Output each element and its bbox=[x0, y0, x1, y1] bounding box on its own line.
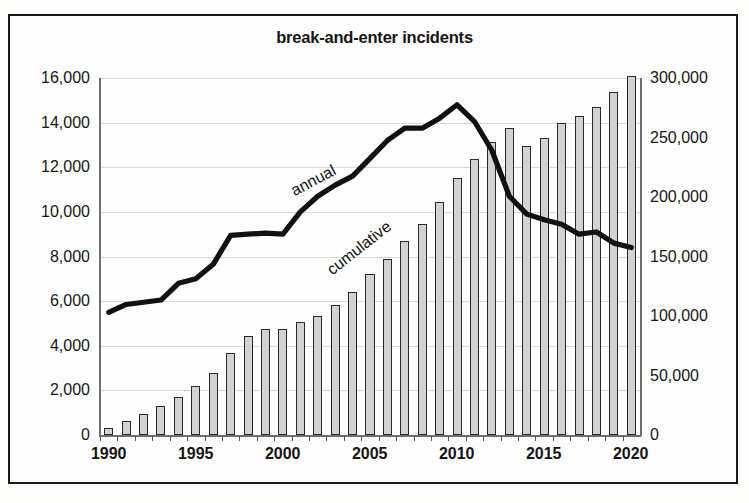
x-tickmark bbox=[292, 436, 293, 441]
x-tick-label: 2020 bbox=[613, 446, 649, 462]
x-tickmark bbox=[222, 436, 223, 441]
x-tickmark bbox=[553, 436, 554, 441]
bar bbox=[435, 202, 444, 435]
x-tick-label: 2000 bbox=[265, 446, 301, 462]
bar bbox=[226, 353, 235, 435]
bar bbox=[191, 386, 200, 435]
y-tick-right: 150,000 bbox=[650, 249, 746, 265]
x-tick-label: 1990 bbox=[91, 446, 127, 462]
bar bbox=[122, 421, 131, 435]
bar bbox=[505, 128, 514, 435]
x-tickmark bbox=[623, 436, 624, 441]
x-tickmark bbox=[448, 436, 449, 441]
y-tick-left: 14,000 bbox=[6, 115, 90, 131]
x-tickmark bbox=[501, 436, 502, 441]
bar bbox=[470, 159, 479, 435]
bar bbox=[383, 259, 392, 435]
bar bbox=[609, 92, 618, 435]
bar bbox=[487, 142, 496, 435]
x-tickmark bbox=[257, 436, 258, 441]
bar bbox=[331, 305, 340, 435]
y-tick-left: 6,000 bbox=[6, 293, 90, 309]
x-tickmark bbox=[518, 436, 519, 441]
y-tick-right: 50,000 bbox=[650, 368, 746, 384]
x-tickmark bbox=[570, 436, 571, 441]
bar bbox=[104, 428, 113, 435]
x-tickmark bbox=[205, 436, 206, 441]
y-tick-right: 0 bbox=[650, 427, 746, 443]
bar bbox=[261, 329, 270, 435]
x-tickmark bbox=[344, 436, 345, 441]
bar bbox=[174, 397, 183, 435]
bar bbox=[522, 146, 531, 435]
bar bbox=[540, 138, 549, 436]
y-tick-right: 200,000 bbox=[650, 189, 746, 205]
x-tickmark bbox=[152, 436, 153, 441]
x-tick-label: 1995 bbox=[178, 446, 214, 462]
bar bbox=[575, 116, 584, 435]
x-tick-label: 2005 bbox=[352, 446, 388, 462]
x-tickmark bbox=[361, 436, 362, 441]
chart-figure: break-and-enter incidents 16,000 14,000 … bbox=[0, 0, 749, 503]
y-tick-right: 100,000 bbox=[650, 308, 746, 324]
bar bbox=[156, 406, 165, 435]
x-tickmark bbox=[379, 436, 380, 441]
x-tickmark bbox=[187, 436, 188, 441]
y-tick-left: 8,000 bbox=[6, 249, 90, 265]
bar bbox=[592, 107, 601, 435]
y-tick-left: 10,000 bbox=[6, 204, 90, 220]
bar bbox=[557, 123, 566, 435]
bar bbox=[209, 373, 218, 435]
y-tick-right: 300,000 bbox=[650, 70, 746, 86]
bar bbox=[278, 329, 287, 435]
x-tickmark bbox=[274, 436, 275, 441]
x-tickmark bbox=[588, 436, 589, 441]
x-tickmark bbox=[535, 436, 536, 441]
bar bbox=[296, 322, 305, 435]
x-tickmark bbox=[170, 436, 171, 441]
x-tickmark bbox=[414, 436, 415, 441]
y-tick-left: 16,000 bbox=[6, 70, 90, 86]
y-tick-left: 4,000 bbox=[6, 338, 90, 354]
x-tickmark bbox=[396, 436, 397, 441]
x-tickmark bbox=[135, 436, 136, 441]
bar bbox=[365, 274, 374, 435]
y-tick-right: 250,000 bbox=[650, 130, 746, 146]
gridline bbox=[100, 78, 640, 79]
x-tickmark bbox=[605, 436, 606, 441]
bar bbox=[244, 336, 253, 435]
bar bbox=[627, 76, 636, 435]
bar bbox=[453, 178, 462, 435]
x-tickmark bbox=[466, 436, 467, 441]
y-tick-left: 0 bbox=[6, 427, 90, 443]
y-tick-left: 12,000 bbox=[6, 159, 90, 175]
bar bbox=[348, 292, 357, 435]
x-axis bbox=[99, 435, 641, 437]
chart-title: break-and-enter incidents bbox=[0, 28, 749, 47]
x-tickmark bbox=[100, 436, 101, 441]
bar bbox=[313, 316, 322, 435]
x-tickmark bbox=[431, 436, 432, 441]
bar bbox=[139, 414, 148, 435]
x-tickmark bbox=[326, 436, 327, 441]
x-tick-label: 2010 bbox=[439, 446, 475, 462]
x-tickmark bbox=[309, 436, 310, 441]
y-axis-left bbox=[99, 78, 101, 436]
x-tickmark bbox=[239, 436, 240, 441]
y-tick-left: 2,000 bbox=[6, 382, 90, 398]
bar bbox=[400, 241, 409, 435]
x-tickmark bbox=[483, 436, 484, 441]
x-tickmark bbox=[117, 436, 118, 441]
y-axis-right bbox=[640, 78, 642, 436]
bar bbox=[418, 224, 427, 435]
x-tick-label: 2015 bbox=[526, 446, 562, 462]
